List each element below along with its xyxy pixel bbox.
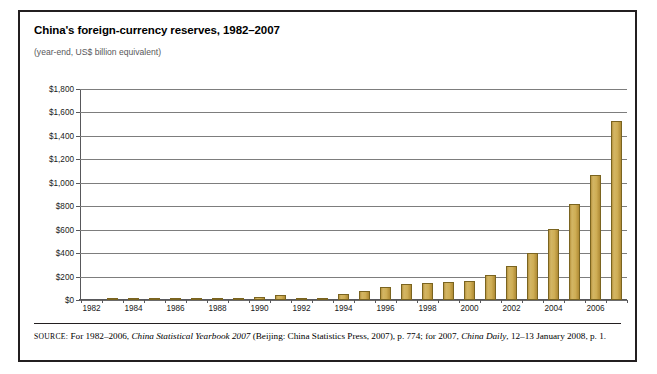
- y-axis-tick-label: $400: [14, 249, 74, 258]
- bar-2003: [527, 253, 538, 300]
- x-axis-tick-mark: [522, 300, 523, 303]
- x-axis-tick-mark: [249, 300, 250, 303]
- y-axis-tick-label: $1,800: [14, 85, 74, 94]
- x-axis-tick-label: 2002: [502, 304, 520, 313]
- x-axis-tick-mark: [375, 300, 376, 303]
- source-text-2: (Beijing: China Statistics Press, 2007),…: [250, 331, 461, 341]
- bar-2005: [569, 204, 580, 300]
- y-axis-tick-label: $800: [14, 202, 74, 211]
- bar-1994: [338, 294, 349, 300]
- y-axis-tick-mark: [76, 277, 80, 278]
- y-axis-tick-mark: [76, 300, 80, 301]
- y-axis-tick-mark: [76, 136, 80, 137]
- x-axis-tick-mark: [123, 300, 124, 303]
- bar-1991: [275, 295, 286, 300]
- x-axis-tick-mark: [501, 300, 502, 303]
- x-axis-tick-mark: [333, 300, 334, 303]
- y-axis-tick-mark: [76, 230, 80, 231]
- source-text-3: , 12–13 January 2008, p. 1.: [506, 331, 606, 341]
- source-note: SOURCE: For 1982–2006, China Statistical…: [34, 330, 621, 342]
- bar-2002: [506, 266, 517, 300]
- x-axis-tick-mark: [186, 300, 187, 303]
- bar-1999: [443, 282, 454, 300]
- bar-2000: [464, 281, 475, 300]
- x-axis-tick-mark: [627, 300, 628, 303]
- x-axis-tick-mark: [480, 300, 481, 303]
- x-axis-tick-label: 2006: [586, 304, 604, 313]
- source-italic-2: China Daily: [461, 331, 506, 341]
- x-axis-tick-label: 2004: [544, 304, 562, 313]
- x-axis-tick-mark: [459, 300, 460, 303]
- y-axis-tick-label: $0: [14, 296, 74, 305]
- bar-1985: [149, 298, 160, 300]
- bar-1987: [191, 298, 202, 300]
- y-axis-tick-label: $1,600: [14, 108, 74, 117]
- x-axis-tick-mark: [543, 300, 544, 303]
- x-axis-tick-mark: [564, 300, 565, 303]
- x-axis-tick-label: 1996: [376, 304, 394, 313]
- x-axis-tick-mark: [144, 300, 145, 303]
- bar-2006: [590, 175, 601, 300]
- bar-2007: [611, 121, 622, 300]
- y-axis-tick-mark: [76, 206, 80, 207]
- x-axis-tick-mark: [585, 300, 586, 303]
- bar-1990: [254, 297, 265, 300]
- page-title: China's foreign-currency reserves, 1982–…: [34, 24, 280, 36]
- source-text-1: For 1982–2006,: [68, 331, 131, 341]
- bar-1995: [359, 291, 370, 300]
- chart-plot-area: $0$200$400$600$800$1,000$1,200$1,400$1,6…: [80, 89, 627, 300]
- y-axis-tick-label: $600: [14, 225, 74, 234]
- x-axis-tick-mark: [102, 300, 103, 303]
- y-axis-tick-mark: [76, 183, 80, 184]
- y-axis-tick-label: $1,200: [14, 155, 74, 164]
- bar-1993: [317, 298, 328, 300]
- x-axis-tick-label: 1994: [334, 304, 352, 313]
- x-axis-tick-label: 1990: [250, 304, 268, 313]
- x-axis-tick-label: 1984: [124, 304, 142, 313]
- x-axis-tick-label: 1986: [166, 304, 184, 313]
- bar-1986: [170, 298, 181, 300]
- x-axis-tick-label: 1982: [82, 304, 100, 313]
- x-axis-tick-mark: [81, 300, 82, 303]
- bar-1988: [212, 298, 223, 300]
- bar-1998: [422, 283, 433, 300]
- x-axis-tick-mark: [270, 300, 271, 303]
- y-axis-tick-label: $1,000: [14, 178, 74, 187]
- x-axis-tick-mark: [606, 300, 607, 303]
- bar-1989: [233, 298, 244, 300]
- source-italic-1: China Statistical Yearbook 2007: [131, 331, 250, 341]
- y-axis-tick-label: $1,400: [14, 131, 74, 140]
- source-label: SOURCE:: [34, 332, 68, 341]
- x-axis-tick-mark: [228, 300, 229, 303]
- x-axis-tick-mark: [312, 300, 313, 303]
- bar-2004: [548, 229, 559, 301]
- x-axis-tick-label: 1998: [418, 304, 436, 313]
- x-axis-tick-label: 1988: [208, 304, 226, 313]
- x-axis-tick-label: 1992: [292, 304, 310, 313]
- x-axis-tick-mark: [396, 300, 397, 303]
- bar-2001: [485, 275, 496, 300]
- figure-subtitle: (year-end, US$ billion equivalent): [34, 47, 161, 57]
- bar-1984: [128, 298, 139, 300]
- x-axis-tick-mark: [207, 300, 208, 303]
- y-axis-tick-mark: [76, 89, 80, 90]
- x-axis-tick-mark: [291, 300, 292, 303]
- y-axis-tick-label: $200: [14, 272, 74, 281]
- bar-1992: [296, 298, 307, 300]
- bar-1997: [401, 284, 412, 300]
- x-axis-tick-mark: [417, 300, 418, 303]
- y-axis-tick-mark: [76, 253, 80, 254]
- bar-series: [81, 89, 627, 300]
- source-divider: [34, 323, 621, 324]
- y-axis-tick-mark: [76, 112, 80, 113]
- figure-panel: China's foreign-currency reserves, 1982–…: [18, 10, 637, 362]
- bar-1983: [107, 298, 118, 300]
- figure-inner: China's foreign-currency reserves, 1982–…: [20, 12, 635, 360]
- x-axis-tick-mark: [438, 300, 439, 303]
- y-axis-tick-mark: [76, 159, 80, 160]
- x-axis-tick-mark: [165, 300, 166, 303]
- x-axis-tick-label: 2000: [460, 304, 478, 313]
- x-axis-tick-mark: [354, 300, 355, 303]
- bar-1996: [380, 287, 391, 300]
